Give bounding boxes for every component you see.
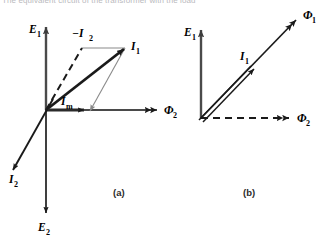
phasor-diagram-b: E 1 Φ 2 Φ 1 I 1 (b) bbox=[183, 8, 316, 198]
label-Phi2-b: Φ 2 bbox=[297, 111, 310, 128]
svg-text:−I: −I bbox=[72, 27, 84, 39]
label-E1-b: E 1 bbox=[183, 26, 196, 42]
label-Phi1-b: Φ 1 bbox=[303, 8, 316, 25]
svg-text:E: E bbox=[37, 221, 46, 233]
svg-text:1: 1 bbox=[312, 16, 316, 25]
svg-text:1: 1 bbox=[37, 30, 41, 39]
vector-I1-b-line2 bbox=[203, 69, 254, 122]
svg-text:E: E bbox=[183, 26, 192, 38]
label-E2-a: E 2 bbox=[37, 221, 50, 237]
svg-text:2: 2 bbox=[306, 119, 310, 128]
label-I1-a: I 1 bbox=[130, 40, 140, 56]
phasor-figure: The equivalent circuit of the transforme… bbox=[0, 0, 330, 247]
caption-a: (a) bbox=[113, 187, 125, 198]
svg-text:m: m bbox=[66, 102, 73, 111]
caption-b: (b) bbox=[243, 187, 255, 198]
vector-I2 bbox=[13, 99, 53, 170]
label-I2-a: I 2 bbox=[8, 173, 18, 189]
label-Phi2-a: Φ 2 bbox=[164, 103, 177, 120]
svg-text:1: 1 bbox=[192, 33, 196, 42]
phasor-diagram-a: E 1 E 2 Φ 2 I 1 I 2 −I 2 bbox=[8, 23, 177, 237]
vector-I1-b-line1 bbox=[199, 66, 251, 120]
svg-text:E: E bbox=[28, 23, 37, 35]
label-I1-b: I 1 bbox=[239, 50, 249, 66]
parallelogram-right-edge bbox=[90, 48, 125, 111]
svg-text:2: 2 bbox=[89, 34, 93, 43]
svg-text:2: 2 bbox=[46, 228, 50, 237]
phasor-diagrams-svg: E 1 E 2 Φ 2 I 1 I 2 −I 2 bbox=[0, 0, 330, 247]
label-E1-a: E 1 bbox=[28, 23, 41, 39]
svg-text:2: 2 bbox=[173, 111, 177, 120]
label-minus-I2-a: −I 2 bbox=[72, 27, 93, 43]
svg-text:1: 1 bbox=[136, 47, 140, 56]
svg-text:1: 1 bbox=[245, 57, 249, 66]
svg-text:2: 2 bbox=[14, 180, 18, 189]
vector-I1 bbox=[46, 49, 124, 110]
